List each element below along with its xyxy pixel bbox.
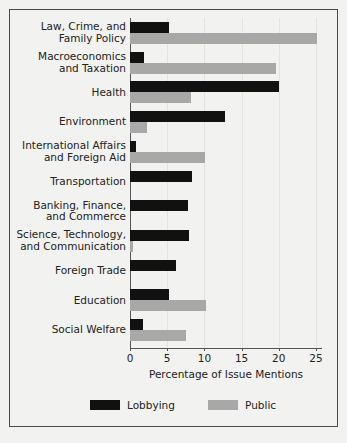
bar-public (130, 122, 147, 133)
x-tick-label: 15 (235, 352, 248, 364)
bar-public (130, 152, 205, 163)
bar-public (130, 300, 206, 311)
y-axis-label: Foreign Trade (8, 265, 126, 277)
x-tick-mark (242, 348, 243, 351)
bar-lobbying (130, 22, 169, 33)
bar-lobbying (130, 52, 144, 63)
bar-public (130, 92, 191, 103)
legend-swatch-lobbying-icon (90, 400, 120, 410)
x-tick-label: 20 (272, 352, 285, 364)
plot-area (130, 18, 323, 345)
chart-figure: Law, Crime, and Family PolicyMacroeconom… (0, 0, 347, 443)
x-tick-label: 25 (309, 352, 322, 364)
bar-public (130, 33, 317, 44)
bar-public (130, 241, 133, 252)
y-axis-label: Health (8, 87, 126, 99)
y-axis-label: Education (8, 295, 126, 307)
y-axis-label: Law, Crime, and Family Policy (8, 21, 126, 44)
bar-public (130, 63, 276, 74)
y-axis-label: International Affairs and Foreign Aid (8, 140, 126, 163)
x-tick-mark (316, 348, 317, 351)
bar-public (130, 330, 186, 341)
legend-swatch-public-icon (208, 400, 238, 410)
x-axis-title: Percentage of Issue Mentions (130, 368, 322, 380)
x-tick-mark (130, 348, 131, 351)
x-tick-mark (204, 348, 205, 351)
y-axis-label: Science, Technology, and Communication (8, 229, 126, 252)
y-axis-label: Macroeconomics and Taxation (8, 51, 126, 74)
legend-label-lobbying: Lobbying (127, 399, 175, 411)
x-tick-label: 10 (198, 352, 211, 364)
y-axis-label: Social Welfare (8, 324, 126, 336)
legend-entry-public: Public (208, 399, 276, 411)
legend-entry-lobbying: Lobbying (90, 399, 175, 411)
bar-lobbying (130, 171, 192, 182)
legend-label-public: Public (245, 399, 276, 411)
x-tick-mark (167, 348, 168, 351)
bar-lobbying (130, 141, 136, 152)
bar-lobbying (130, 200, 188, 211)
x-tick-mark (279, 348, 280, 351)
bar-lobbying (130, 260, 176, 271)
bar-lobbying (130, 111, 225, 122)
bar-lobbying (130, 230, 189, 241)
y-axis-label: Environment (8, 116, 126, 128)
bar-lobbying (130, 289, 169, 300)
y-axis-label: Banking, Finance, and Commerce (8, 200, 126, 223)
y-axis-label: Transportation (8, 176, 126, 188)
x-axis-spine (130, 348, 322, 349)
x-tick-label: 5 (164, 352, 171, 364)
x-tick-label: 0 (127, 352, 134, 364)
chart-legend: Lobbying Public (40, 399, 310, 415)
y-axis-category-labels: Law, Crime, and Family PolicyMacroeconom… (4, 18, 126, 348)
bar-lobbying (130, 319, 143, 330)
bar-lobbying (130, 81, 279, 92)
